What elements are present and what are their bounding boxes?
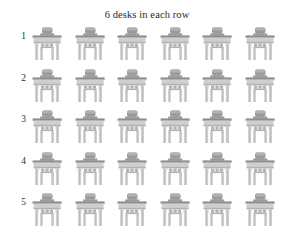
row-label-5: 5 bbox=[16, 197, 26, 207]
desk-array-figure: 6 desks in each row 12345 bbox=[0, 0, 294, 246]
desk-icon bbox=[199, 26, 235, 62]
desk-icon bbox=[199, 68, 235, 104]
desk-icon bbox=[242, 68, 278, 104]
desk-icon bbox=[72, 26, 108, 62]
desk-icon bbox=[157, 68, 193, 104]
desk-row: 2 bbox=[0, 68, 294, 110]
desk-icon bbox=[157, 192, 193, 228]
desk-icon bbox=[199, 109, 235, 145]
row-label-2: 2 bbox=[16, 73, 26, 83]
desk-row: 5 bbox=[0, 192, 294, 234]
desk-icon bbox=[114, 192, 150, 228]
desk-icon bbox=[242, 192, 278, 228]
desk-icon bbox=[114, 109, 150, 145]
row-label-1: 1 bbox=[16, 31, 26, 41]
desk-icon bbox=[29, 192, 65, 228]
desk-icon bbox=[242, 151, 278, 187]
desk-icon bbox=[114, 68, 150, 104]
desk-icon bbox=[114, 26, 150, 62]
desk-icon bbox=[72, 192, 108, 228]
desk-icon bbox=[29, 109, 65, 145]
desk-icon bbox=[157, 109, 193, 145]
desk-row: 3 bbox=[0, 109, 294, 151]
desk-icon bbox=[199, 151, 235, 187]
desk-rows-container: 12345 bbox=[0, 26, 294, 234]
desk-icon bbox=[199, 192, 235, 228]
row-label-4: 4 bbox=[16, 156, 26, 166]
desk-icon bbox=[242, 109, 278, 145]
desk-icon bbox=[72, 151, 108, 187]
row-label-3: 3 bbox=[16, 114, 26, 124]
desk-icon bbox=[157, 26, 193, 62]
desk-row: 4 bbox=[0, 151, 294, 193]
desk-icon bbox=[157, 151, 193, 187]
desk-row: 1 bbox=[0, 26, 294, 68]
desk-icon bbox=[72, 109, 108, 145]
desk-icon bbox=[29, 151, 65, 187]
desk-icon bbox=[242, 26, 278, 62]
desk-icon bbox=[72, 68, 108, 104]
page-title: 6 desks in each row bbox=[0, 9, 294, 20]
desk-icon bbox=[29, 26, 65, 62]
desk-icon bbox=[29, 68, 65, 104]
desk-icon bbox=[114, 151, 150, 187]
